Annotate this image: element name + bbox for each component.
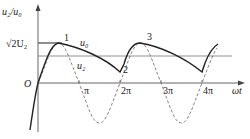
- y-axis-label: u₂/u₀: [2, 6, 22, 17]
- tick-label-3pi: 3π: [163, 85, 173, 96]
- tick-label-2pi: 2π: [121, 85, 131, 96]
- waveform-diagram: u₂/u₀ √2U₂ 1 u₀ u₂ 2 3 O π 2π 3π 4π ωt: [0, 0, 250, 139]
- x-axis-label: ωt: [232, 85, 242, 96]
- point-1-label: 1: [64, 32, 69, 43]
- origin-label: O: [24, 78, 31, 89]
- point-2-label: 2: [123, 64, 128, 75]
- point-3-label: 3: [147, 31, 152, 42]
- u2-label: u₂: [77, 60, 86, 71]
- u0-label: u₀: [80, 37, 89, 48]
- y-axis-arrow: [36, 4, 41, 11]
- tick-label-pi: π: [84, 85, 89, 96]
- peak-level-label: √2U₂: [6, 38, 27, 49]
- u0-rise-segment: [30, 83, 38, 130]
- tick-label-4pi: 4π: [203, 85, 213, 96]
